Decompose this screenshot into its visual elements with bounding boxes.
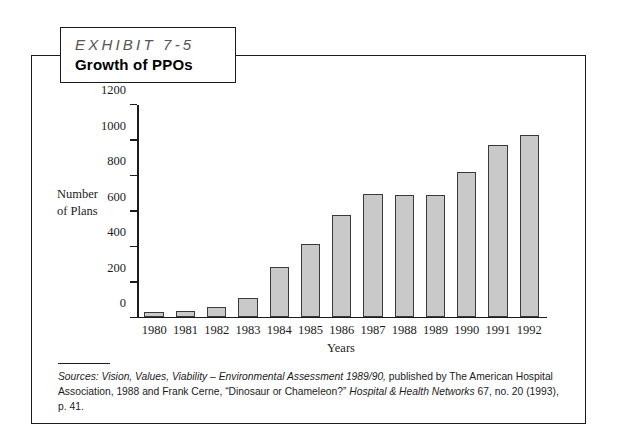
source-title-2: Hospital & Health Networks (349, 386, 474, 397)
x-axis-tick-label: 1991 (486, 323, 511, 338)
bar-slot: 1984 (264, 105, 295, 317)
y-axis-tick-label: 200 (107, 260, 126, 275)
y-axis-tick (130, 317, 137, 318)
bar (395, 195, 414, 317)
x-axis-tick-label: 1985 (298, 323, 323, 338)
bar-slot: 1981 (170, 105, 201, 317)
bar (332, 215, 351, 316)
y-axis-title: Numberof Plans (57, 186, 98, 219)
y-axis-tick (130, 104, 137, 105)
y-axis-tick-label: 0 (120, 296, 126, 311)
x-axis-line (137, 317, 547, 319)
bar (144, 312, 163, 316)
y-axis-tick-label: 800 (107, 154, 126, 169)
source-title-1: Vision, Values, Viability – Environmenta… (102, 371, 386, 382)
bar (488, 145, 507, 317)
y-axis-tick (130, 175, 137, 176)
source-note: Sources: Vision, Values, Viability – Env… (58, 369, 562, 415)
bar (176, 311, 195, 316)
x-axis-tick-label: 1982 (204, 323, 229, 338)
bar-slot: 1989 (420, 105, 451, 317)
chart-plot-area: 020040060080010001200 198019811982198319… (137, 105, 545, 318)
y-axis-title-line-1: Number (57, 186, 98, 203)
source-label: Sources: (58, 371, 102, 382)
bar-slot: 1991 (482, 105, 513, 317)
x-axis-tick-label: 1984 (267, 323, 292, 338)
y-axis-tick (130, 139, 137, 140)
exhibit-number: EXHIBIT 7-5 (75, 36, 235, 55)
bar-slot: 1988 (389, 105, 420, 317)
source-divider (58, 363, 110, 364)
y-axis-tick (130, 281, 137, 282)
bar (238, 298, 257, 317)
y-axis-title-line-2: of Plans (57, 203, 98, 220)
bar-series: 1980198119821983198419851986198719881989… (139, 105, 546, 317)
bar-slot: 1985 (295, 105, 326, 317)
bar (426, 195, 445, 316)
bar-slot: 1986 (326, 105, 357, 317)
x-axis-title: Years (137, 341, 545, 356)
y-axis-tick-label: 400 (107, 225, 126, 240)
bar (363, 194, 382, 316)
x-axis-tick-label: 1981 (173, 323, 198, 338)
bar-slot: 1987 (357, 105, 388, 317)
bar-slot: 1983 (232, 105, 263, 317)
bar (457, 172, 476, 317)
y-axis-tick (130, 246, 137, 247)
x-axis-tick-label: 1986 (329, 323, 354, 338)
x-axis-tick-label: 1992 (517, 323, 542, 338)
x-axis-tick-label: 1980 (142, 323, 167, 338)
x-axis-tick-label: 1990 (454, 323, 479, 338)
y-axis-tick-label: 1000 (101, 118, 126, 133)
bar (520, 135, 539, 317)
bar-slot: 1982 (201, 105, 232, 317)
bar (301, 244, 320, 316)
bar (270, 267, 289, 316)
y-axis-tick-label: 600 (107, 189, 126, 204)
bar-slot: 1980 (139, 105, 170, 317)
y-axis-tick-label: 1200 (101, 83, 126, 98)
exhibit-title: Growth of PPOs (75, 55, 235, 75)
x-axis-tick-label: 1987 (360, 323, 385, 338)
x-axis-tick-label: 1983 (235, 323, 260, 338)
x-axis-tick-label: 1989 (423, 323, 448, 338)
y-axis-tick (130, 210, 137, 211)
bar-slot: 1992 (514, 105, 545, 317)
bar-slot: 1990 (451, 105, 482, 317)
x-axis-tick-label: 1988 (392, 323, 417, 338)
exhibit-title-box: EXHIBIT 7-5 Growth of PPOs (60, 27, 236, 83)
bar (207, 307, 226, 317)
